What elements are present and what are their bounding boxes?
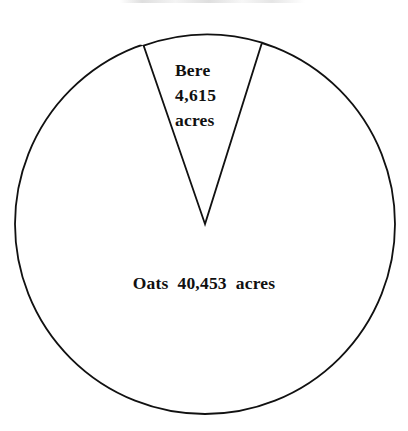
slice-label-bere: Bere 4,615 acres — [175, 58, 270, 133]
slice-label-oats-unit: acres — [236, 273, 276, 293]
slice-label-bere-value: 4,615 — [175, 83, 270, 108]
slice-label-oats-name: Oats — [133, 273, 169, 293]
slice-label-oats: Oats40,453acres — [0, 272, 408, 294]
slice-label-bere-unit: acres — [175, 108, 270, 133]
pie-diagram-page: Bere 4,615 acres Oats40,453acres — [0, 0, 408, 431]
slice-label-bere-name: Bere — [175, 58, 270, 83]
slice-label-oats-value: 40,453 — [177, 273, 226, 293]
